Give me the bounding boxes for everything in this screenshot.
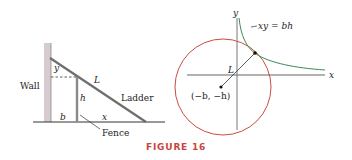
label-y: y bbox=[53, 63, 60, 73]
radius-L bbox=[221, 53, 255, 87]
label-fence: Fence bbox=[102, 128, 129, 138]
label-curve: xy = bh bbox=[258, 21, 293, 31]
label-L-right: L bbox=[227, 65, 234, 75]
label-x-left: x bbox=[102, 112, 107, 122]
tangent-point bbox=[253, 51, 257, 55]
label-b: b bbox=[60, 112, 66, 122]
figure-16: Wall y L h Ladder b x Fence y xy = bh x … bbox=[0, 0, 352, 160]
center-point bbox=[219, 85, 222, 88]
label-y-axis: y bbox=[232, 8, 239, 18]
figure-caption: FIGURE 16 bbox=[146, 142, 206, 152]
label-L-left: L bbox=[93, 75, 100, 85]
curve-leader bbox=[251, 26, 257, 27]
wall bbox=[44, 43, 51, 122]
label-x-axis: x bbox=[329, 70, 334, 80]
label-h: h bbox=[80, 93, 86, 103]
label-center: (−b, −h) bbox=[191, 91, 230, 101]
label-ladder: Ladder bbox=[121, 93, 154, 103]
ladder-diagram: Wall y L h Ladder b x Fence bbox=[20, 43, 165, 138]
label-wall: Wall bbox=[20, 81, 40, 91]
coordinate-diagram: y xy = bh x L (−b, −h) bbox=[175, 8, 334, 135]
